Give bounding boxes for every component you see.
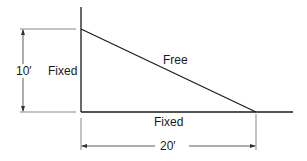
triangle-diagram (0, 0, 307, 161)
width-arrow-left-icon (81, 144, 87, 148)
width-dimension-label: 20′ (160, 140, 176, 152)
top-boundary-label: Free (163, 54, 188, 66)
width-arrow-right-icon (250, 144, 256, 148)
height-arrow-down-icon (21, 106, 25, 112)
height-dimension-label: 10′ (16, 65, 32, 77)
left-boundary-label: Fixed (48, 65, 77, 77)
height-arrow-up-icon (21, 29, 25, 35)
free-surface-line (81, 29, 256, 112)
bottom-boundary-label: Fixed (154, 116, 183, 128)
